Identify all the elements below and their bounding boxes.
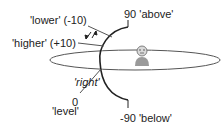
higher-label: 'higher' (+10) [12, 38, 76, 49]
level-label: 'level' [52, 106, 79, 117]
elevation-arc [100, 27, 128, 100]
below-label: -90 'below' [120, 113, 172, 124]
lower-line [88, 26, 112, 37]
above-label: 90 'above' [124, 9, 173, 20]
arrows-icon [85, 31, 97, 39]
right-label: 'right' [74, 77, 100, 88]
observer-icon [135, 46, 149, 66]
higher-line [78, 43, 104, 46]
horizontal-plane [50, 50, 220, 70]
lower-label: 'lower' (-10) [30, 15, 87, 26]
